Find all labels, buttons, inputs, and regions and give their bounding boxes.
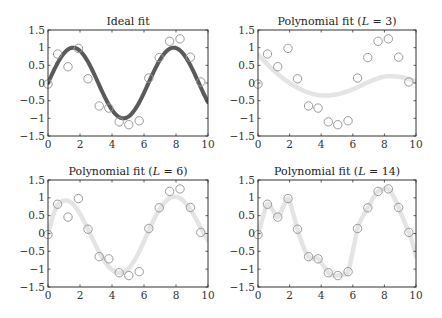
x-tick-label: 2 xyxy=(77,138,84,150)
x-tick-label: 8 xyxy=(381,138,388,150)
y-tick-label: 1.5 xyxy=(28,174,45,186)
data-point xyxy=(304,102,312,110)
x-tick-label: 10 xyxy=(409,138,422,150)
data-point xyxy=(135,267,143,275)
subplot-title: Polynomial fit (L = 6) xyxy=(69,165,188,178)
data-point xyxy=(84,75,92,83)
subplot-title: Ideal fit xyxy=(106,15,150,28)
y-tick-label: 0.5 xyxy=(238,209,255,221)
data-point xyxy=(53,50,61,58)
y-tick-label: 0 xyxy=(38,77,45,89)
y-tick-label: −1 xyxy=(30,263,45,275)
y-tick-label: −0.5 xyxy=(230,245,256,257)
y-tick-label: −0.5 xyxy=(20,245,46,257)
fit-curve xyxy=(48,197,208,273)
data-point xyxy=(105,255,113,263)
data-point xyxy=(125,271,133,279)
y-tick-label: 0.5 xyxy=(28,209,45,221)
y-tick-label: −1.5 xyxy=(20,130,46,142)
data-point xyxy=(353,74,361,82)
y-tick-label: 0 xyxy=(38,227,45,239)
data-point xyxy=(324,118,332,126)
x-tick-label: 0 xyxy=(45,138,52,150)
subplot-title: Polynomial fit (L = 14) xyxy=(274,165,400,178)
x-tick-label: 6 xyxy=(349,138,356,150)
data-point xyxy=(274,63,282,71)
x-tick-label: 4 xyxy=(318,289,325,301)
data-point xyxy=(293,75,301,83)
x-tick-label: 8 xyxy=(173,289,180,301)
y-tick-label: 0 xyxy=(248,77,255,89)
x-tick-label: 6 xyxy=(141,289,148,301)
data-point xyxy=(64,63,72,71)
x-tick-label: 10 xyxy=(201,138,214,150)
title-part: L xyxy=(361,15,369,28)
y-tick-label: −1 xyxy=(240,112,255,124)
x-tick-label: 8 xyxy=(173,138,180,150)
y-tick-label: −1.5 xyxy=(230,130,256,142)
y-tick-label: −0.5 xyxy=(20,94,46,106)
data-point xyxy=(165,187,173,195)
data-point xyxy=(263,50,271,58)
y-tick-label: 1.5 xyxy=(28,24,45,36)
x-tick-label: 2 xyxy=(286,138,293,150)
x-tick-label: 2 xyxy=(77,289,84,301)
x-tick-label: 2 xyxy=(286,289,293,301)
data-point xyxy=(374,37,382,45)
data-point xyxy=(344,117,352,125)
data-point xyxy=(394,53,402,61)
fit-curve xyxy=(48,48,208,119)
y-tick-label: 0 xyxy=(248,227,255,239)
title-part: = 3) xyxy=(369,15,397,28)
data-point xyxy=(364,53,372,61)
y-tick-label: −1 xyxy=(240,263,255,275)
y-tick-label: 1.5 xyxy=(238,174,255,186)
y-tick-label: −1.5 xyxy=(20,281,46,293)
y-tick-label: −0.5 xyxy=(230,94,256,106)
x-tick-label: 10 xyxy=(201,289,214,301)
y-tick-label: 1 xyxy=(248,41,255,53)
x-tick-label: 0 xyxy=(255,289,262,301)
figure: Ideal fit02468101.510.50−0.5−1−1.5 Polyn… xyxy=(0,0,442,318)
x-tick-label: 10 xyxy=(409,289,422,301)
subplot-polynomial-fit-l14: Polynomial fit (L = 14)02468101.510.50−0… xyxy=(230,165,423,301)
data-point xyxy=(64,213,72,221)
y-tick-label: 1 xyxy=(38,41,45,53)
data-point xyxy=(176,185,184,193)
subplot-title: Polynomial fit (L = 3) xyxy=(278,15,397,28)
fit-curve xyxy=(258,55,416,96)
x-tick-label: 4 xyxy=(318,138,325,150)
title-part: = 6) xyxy=(160,165,188,178)
x-tick-label: 4 xyxy=(109,289,116,301)
subplot-polynomial-fit-l6: Polynomial fit (L = 6)02468101.510.50−0.… xyxy=(20,165,215,301)
fit-curve xyxy=(258,188,416,275)
data-point xyxy=(176,35,184,43)
title-part: Polynomial fit ( xyxy=(69,165,153,178)
title-part: = 14) xyxy=(365,165,400,178)
data-point xyxy=(334,120,342,128)
subplot-polynomial-fit-l3: Polynomial fit (L = 3)02468101.510.50−0.… xyxy=(230,15,423,150)
x-tick-label: 0 xyxy=(255,138,262,150)
data-point xyxy=(95,102,103,110)
data-point xyxy=(284,44,292,52)
data-point xyxy=(125,120,133,128)
title-part: Polynomial fit ( xyxy=(278,15,362,28)
x-tick-label: 4 xyxy=(109,138,116,150)
data-point xyxy=(314,104,322,112)
y-tick-label: 1 xyxy=(38,191,45,203)
y-tick-label: 0.5 xyxy=(238,59,255,71)
data-point xyxy=(384,35,392,43)
y-tick-label: −1 xyxy=(30,112,45,124)
y-tick-label: −1.5 xyxy=(230,281,256,293)
x-tick-label: 6 xyxy=(141,138,148,150)
title-part: L xyxy=(152,165,160,178)
data-point xyxy=(74,194,82,202)
x-tick-label: 6 xyxy=(349,289,356,301)
title-part: Polynomial fit ( xyxy=(274,165,358,178)
y-tick-label: 1.5 xyxy=(238,24,255,36)
y-tick-label: 0.5 xyxy=(28,59,45,71)
title-part: L xyxy=(357,165,365,178)
x-tick-label: 0 xyxy=(45,289,52,301)
x-tick-label: 8 xyxy=(381,289,388,301)
data-point xyxy=(165,37,173,45)
